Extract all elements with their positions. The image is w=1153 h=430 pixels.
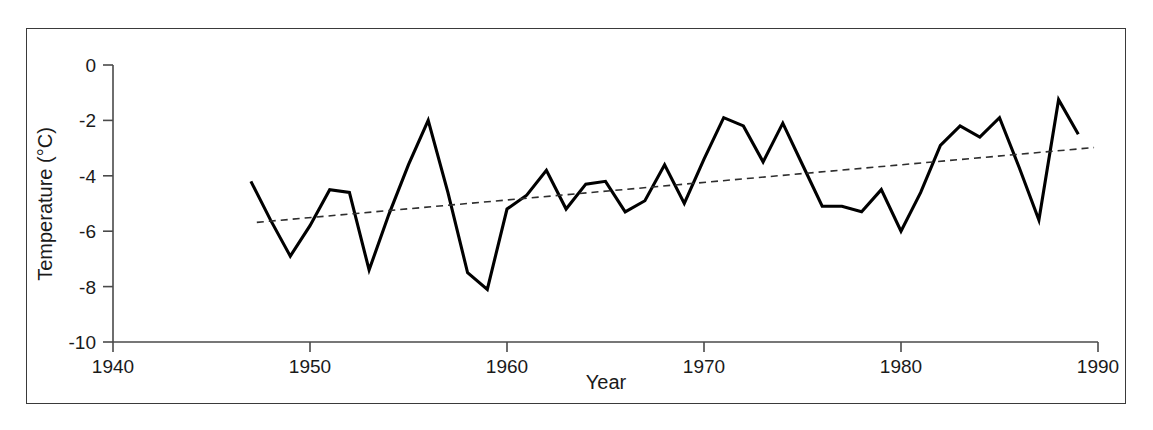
y-tick-label--4: -4 (79, 166, 96, 187)
x-axis-title: Year (586, 371, 627, 393)
x-ticks-group (113, 342, 1098, 352)
x-tick-label-1960: 1960 (486, 356, 528, 377)
x-tick-label-1990: 1990 (1077, 356, 1119, 377)
y-tick-label--10: -10 (69, 332, 96, 353)
y-tick-labels: -10-8-6-4-20 (69, 55, 97, 353)
linear-trend-line (257, 148, 1094, 223)
x-tick-label-1950: 1950 (289, 356, 331, 377)
y-ticks-group (103, 65, 113, 342)
x-tick-label-1980: 1980 (880, 356, 922, 377)
y-tick-label--2: -2 (79, 110, 96, 131)
y-tick-label-0: 0 (85, 55, 96, 76)
y-tick-label--6: -6 (79, 221, 96, 242)
temperature-line-chart: -10-8-6-4-20 194019501960197019801990 Ye… (0, 0, 1153, 430)
y-axis-title: Temperature (°C) (34, 127, 56, 281)
y-tick-label--8: -8 (79, 277, 96, 298)
temperature-series-line (251, 100, 1078, 290)
x-tick-label-1970: 1970 (683, 356, 725, 377)
figure-root: -10-8-6-4-20 194019501960197019801990 Ye… (0, 0, 1153, 430)
x-tick-label-1940: 1940 (92, 356, 134, 377)
